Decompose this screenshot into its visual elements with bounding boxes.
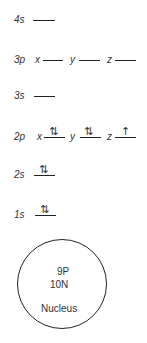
axis-label-2p-y: y <box>70 132 75 142</box>
orbital-line-3p-y <box>79 60 100 61</box>
electron-pair-icon-2s: ⇅ <box>39 164 48 175</box>
level-label-2p: 2p <box>14 132 25 142</box>
proton-count: 9P <box>57 267 69 277</box>
orbital-line-4s <box>33 20 55 21</box>
level-label-2s: 2s <box>14 170 25 180</box>
orbital-line-2p-y <box>80 137 101 138</box>
orbital-line-2p-x <box>44 137 65 138</box>
axis-label-3p-z: z <box>107 55 112 65</box>
electron-single-icon-2p-z: ↑ <box>121 126 130 137</box>
orbital-line-2s <box>34 175 55 176</box>
axis-label-2p-z: z <box>107 132 112 142</box>
electron-pair-icon-1s: ⇅ <box>40 204 49 215</box>
orbital-line-3p-x <box>43 60 63 61</box>
axis-label-2p-x: x <box>37 132 42 142</box>
nucleus-label: Nucleus <box>41 304 77 314</box>
axis-label-3p-x: x <box>35 55 40 65</box>
electron-pair-icon-2p-y: ⇅ <box>84 126 93 137</box>
level-label-3s: 3s <box>14 91 25 101</box>
level-label-1s: 1s <box>14 210 25 220</box>
orbital-line-1s <box>35 215 56 216</box>
axis-label-3p-y: y <box>70 55 75 65</box>
level-label-3p: 3p <box>14 55 25 65</box>
orbital-line-3s <box>34 96 55 97</box>
electron-pair-icon-2p-x: ⇅ <box>49 126 58 137</box>
orbital-line-2p-z <box>115 137 136 138</box>
orbital-line-3p-z <box>115 60 136 61</box>
level-label-4s: 4s <box>14 15 25 25</box>
neutron-count: 10N <box>50 280 68 290</box>
